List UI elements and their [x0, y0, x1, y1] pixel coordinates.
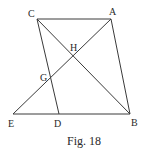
segment-AB	[111, 19, 130, 114]
label-C: C	[28, 8, 35, 19]
label-H: H	[70, 42, 77, 53]
label-B: B	[131, 117, 138, 128]
geometry-figure: C A H G E D B Fig. 18	[0, 0, 148, 150]
segment-CD	[37, 19, 59, 114]
figure-caption: Fig. 18	[67, 134, 101, 148]
label-G: G	[40, 72, 47, 83]
label-A: A	[109, 6, 117, 17]
label-D: D	[54, 118, 61, 129]
segment-EA	[13, 19, 111, 114]
segment-CB	[37, 19, 130, 114]
label-E: E	[8, 118, 14, 129]
